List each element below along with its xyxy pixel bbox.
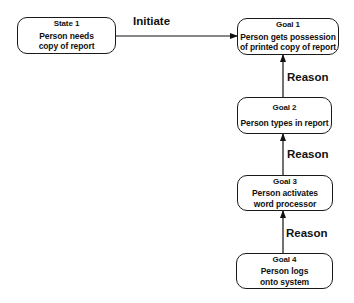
node-desc: Person needs copy of report [39, 31, 95, 52]
node-title: Goal 2 [273, 103, 297, 114]
node-goal1: Goal 1 Person gets possession of printed… [237, 18, 339, 55]
node-title: Goal 4 [273, 255, 297, 266]
edge-label-reason-3: Reason [286, 227, 328, 239]
node-desc: Person types in report [240, 118, 328, 129]
node-desc: Person logs onto system [260, 266, 309, 287]
node-goal4: Goal 4 Person logs onto system [236, 253, 333, 289]
edge-label-reason-1: Reason [287, 71, 329, 83]
edge-label-reason-2: Reason [287, 148, 329, 160]
node-state1: State 1 Person needs copy of report [17, 17, 116, 54]
node-goal3: Goal 3 Person activates word processor [237, 175, 333, 211]
node-title: Goal 3 [273, 177, 297, 188]
node-goal2: Goal 2 Person types in report [237, 97, 332, 134]
node-desc: Person gets possession of printed copy o… [240, 32, 336, 53]
node-title: State 1 [54, 19, 80, 30]
node-title: Goal 1 [276, 20, 300, 31]
node-desc: Person activates word processor [252, 188, 318, 209]
edge-label-initiate: Initiate [133, 15, 170, 27]
